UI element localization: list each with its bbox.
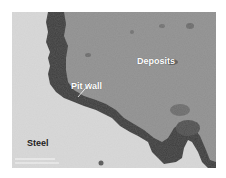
scale-bar-info-2 (15, 162, 59, 164)
scale-bar-info (15, 158, 55, 160)
pit-wall-label: Pit wall (71, 81, 102, 91)
deposits-label: Deposits (137, 56, 175, 66)
micrograph-image: Deposits Pit wall Steel (12, 12, 216, 168)
steel-label: Steel (27, 138, 49, 148)
